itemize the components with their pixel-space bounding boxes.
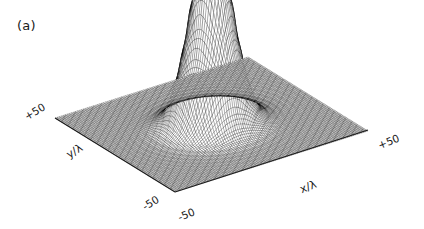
- surface-plot-canvas: [0, 0, 424, 229]
- figure-panel: (a) y/λ +50 -50 x/λ -50 +50: [0, 0, 424, 229]
- panel-label: (a): [17, 18, 36, 33]
